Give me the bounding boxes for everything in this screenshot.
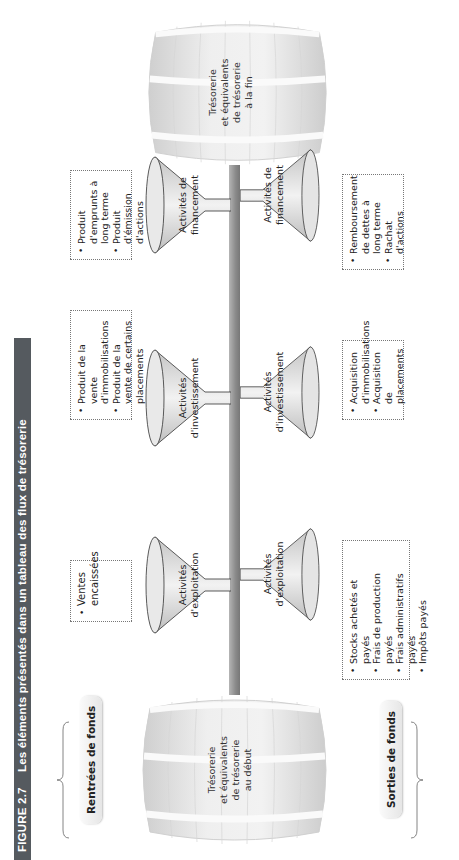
outflows-brace <box>410 720 424 840</box>
barrel-end-label: Trésorerie et équivalents de trésorerie … <box>207 15 255 170</box>
list-item: Ventes encaissées <box>76 569 101 615</box>
outflow-box-investissement: Acquisition d'immobilisations Acquisitio… <box>342 340 404 420</box>
list-item: Frais de production payés <box>371 549 394 673</box>
outflows-label: Sorties de fonds <box>380 701 402 818</box>
barrel-start: Trésorerie et équivalents de trésorerie … <box>142 690 327 850</box>
inflow-box-investissement: Produit de la vente d'immobilisations Pr… <box>70 310 132 420</box>
inflow-funnel-financement: Activités de financement <box>143 155 231 255</box>
diagram-canvas: FIGURE 2.7 Les éléments présentés dans u… <box>0 0 459 860</box>
outflow-funnel-financement: Activités de financement <box>240 148 322 243</box>
figure-number: FIGURE 2.7 <box>16 787 28 852</box>
list-item: Rachat d'actions <box>383 183 406 263</box>
list-item: Produit d'emprunts à long terme <box>76 179 111 253</box>
inflow-box-exploitation: Ventes encaissées <box>70 560 132 622</box>
list-item: Acquisition de placements <box>371 349 406 413</box>
outflow-funnel-exploitation: Activités d'exploitation <box>240 527 322 622</box>
list-item: Frais administratifs payés <box>394 549 417 673</box>
list-item: Produit de la vente d'immobilisations <box>76 319 111 413</box>
list-item: Impôts payés <box>417 549 429 673</box>
outflow-box-financement: Remboursement de dettes à long terme Rac… <box>342 174 404 270</box>
figure-title: Les éléments présentés dans un tableau d… <box>16 419 28 772</box>
barrel-start-label: Trésorerie et équivalents de trésorerie … <box>206 690 254 850</box>
figure-title-bar: FIGURE 2.7 Les éléments présentés dans u… <box>14 338 31 860</box>
list-item: Acquisition d'immobilisations <box>348 349 371 413</box>
inflows-brace <box>56 720 70 840</box>
list-item: Stocks achetés et payés <box>348 549 371 673</box>
list-item: Produit d'émission d'actions <box>111 179 146 253</box>
inflow-funnel-exploitation: Activités d'exploitation <box>143 535 231 635</box>
outflow-funnel-investissement: Activités d'investissement <box>240 345 322 440</box>
outflow-box-exploitation: Stocks achetés et payés Frais de product… <box>342 540 410 680</box>
list-item: Remboursement de dettes à long terme <box>348 183 383 263</box>
barrel-end: Trésorerie et équivalents de trésorerie … <box>145 15 330 170</box>
inflow-box-financement: Produit d'emprunts à long terme Produit … <box>70 170 132 260</box>
inflow-funnel-investissement: Activités d'investissement <box>143 348 231 448</box>
inflows-label: Rentrées de fonds <box>80 696 102 824</box>
list-item: Produit de la vente de certains placemen… <box>111 319 146 413</box>
